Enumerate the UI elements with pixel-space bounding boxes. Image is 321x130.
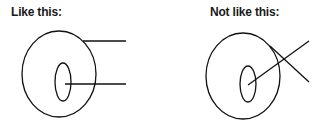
inner-ellipse: [55, 63, 71, 101]
incorrect-example-figure: [206, 33, 309, 119]
inner-leader-line-crossing: [248, 41, 309, 85]
outer-ellipse: [206, 33, 280, 119]
inner-ellipse: [240, 66, 256, 102]
diagram: Like this: Not like this:: [0, 0, 321, 130]
outer-ellipse: [22, 31, 96, 117]
outer-leader-line-crossing: [270, 46, 309, 82]
diagram-drawing: [0, 0, 321, 130]
correct-example-figure: [22, 31, 126, 117]
